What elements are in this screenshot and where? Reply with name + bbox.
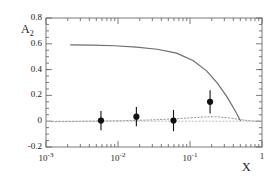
- y-axis-label-subscript: 2: [30, 29, 34, 38]
- y-tick-label: 0.6: [8, 38, 42, 48]
- x-axis-label: X: [242, 160, 251, 175]
- y-axis-label-base: A: [21, 22, 30, 36]
- x-tick-label: 10-3: [28, 151, 64, 163]
- y-axis-label: A2: [21, 22, 34, 38]
- y-tick-label: 0: [8, 115, 42, 125]
- y-tick-label: 0.8: [8, 12, 42, 22]
- plot-frame: [46, 18, 262, 147]
- y-tick-label: -0.2: [8, 141, 42, 151]
- x-tick-label: 1: [244, 151, 276, 161]
- y-tick-label: 0.4: [8, 64, 42, 74]
- x-tick-label: 10-2: [100, 151, 136, 163]
- y-tick-label: 0.2: [8, 89, 42, 99]
- x-tick-label: 10-1: [172, 151, 208, 163]
